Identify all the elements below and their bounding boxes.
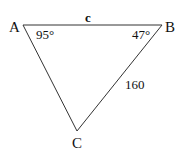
angle-label-b: 47° <box>132 27 150 42</box>
side-label-ab: c <box>85 10 91 25</box>
vertex-label-c: C <box>72 135 82 151</box>
vertex-label-b: B <box>165 19 175 35</box>
side-label-bc: 160 <box>125 77 145 92</box>
vertex-label-a: A <box>9 19 20 35</box>
triangle-diagram: A B C c 160 95° 47° <box>0 0 183 154</box>
angle-label-a: 95° <box>36 27 54 42</box>
